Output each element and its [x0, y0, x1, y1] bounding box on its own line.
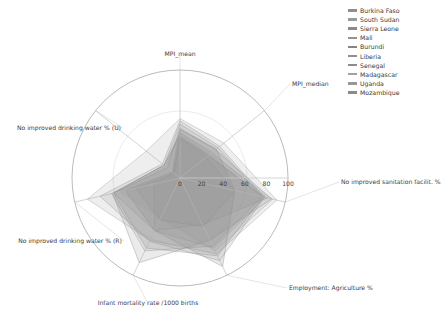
radial-tick-label: 60: [241, 180, 249, 187]
legend-item[interactable]: Mali: [348, 33, 440, 42]
legend-color-swatch-icon: [348, 82, 357, 85]
legend-color-swatch-icon: [348, 27, 357, 30]
legend-item-label: Sierra Leone: [360, 24, 399, 33]
legend-item-label: Mali: [360, 33, 373, 42]
legend-color-swatch-icon: [348, 18, 357, 21]
legend-item[interactable]: South Sudan: [348, 15, 440, 24]
legend-item-label: Senegal: [360, 61, 385, 70]
radar-axis-label: No improved drinking water % (U): [17, 124, 121, 132]
radar-axis-label: Employment: Agriculture %: [289, 284, 373, 292]
legend-item-label: Liberia: [360, 52, 381, 61]
radial-tick-label: 0: [178, 180, 182, 187]
legend-color-swatch-icon: [348, 37, 357, 40]
legend-color-swatch-icon: [348, 55, 357, 58]
legend-item-label: South Sudan: [360, 15, 399, 24]
legend-item[interactable]: Burundi: [348, 42, 440, 51]
radar-axis-label: No improved drinking water % (R): [18, 237, 122, 245]
legend-item-label: Burkina Faso: [360, 6, 399, 15]
legend-item[interactable]: Burkina Faso: [348, 6, 440, 15]
chart-legend: Burkina FasoSouth SudanSierra LeoneMaliB…: [348, 6, 440, 97]
radial-tick-label: 80: [263, 180, 271, 187]
radar-axis-label: MPI_median: [292, 80, 329, 88]
radial-tick-label: 100: [282, 180, 294, 187]
legend-item[interactable]: Liberia: [348, 51, 440, 60]
radial-tick-label: 20: [198, 180, 206, 187]
legend-item-label: Mozambique: [360, 88, 400, 97]
legend-item[interactable]: Sierra Leone: [348, 24, 440, 33]
legend-color-swatch-icon: [348, 91, 357, 94]
legend-item[interactable]: Uganda: [348, 79, 440, 88]
legend-item[interactable]: Mozambique: [348, 88, 440, 97]
radar-chart-figure: 020406080100 MPI_meanMPI_medianNo improv…: [0, 0, 444, 320]
legend-item-label: Burundi: [360, 42, 384, 51]
legend-color-swatch-icon: [348, 64, 357, 67]
legend-item[interactable]: Madagascar: [348, 70, 440, 79]
legend-item[interactable]: Senegal: [348, 61, 440, 70]
radar-axis-label: No improved sanitation facilit. %: [341, 178, 441, 186]
radial-tick-label: 40: [219, 180, 227, 187]
legend-item-label: Madagascar: [360, 70, 398, 79]
legend-color-swatch-icon: [348, 73, 357, 76]
legend-color-swatch-icon: [348, 46, 357, 49]
legend-color-swatch-icon: [348, 9, 357, 12]
legend-item-label: Uganda: [360, 79, 384, 88]
